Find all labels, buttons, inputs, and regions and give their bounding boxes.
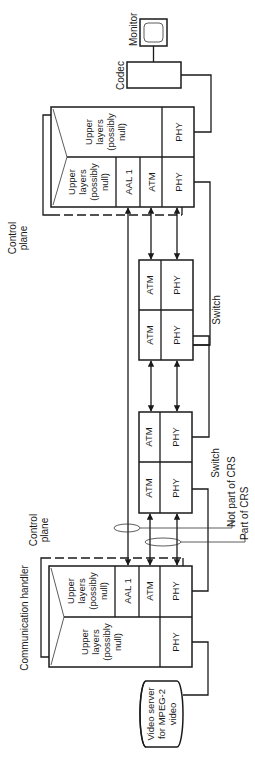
handler-srv-upper-line3: (possibly (101, 623, 112, 661)
handler-net-upper-line2: layers (76, 578, 87, 604)
video-server: Video server for MPEG-2 video (140, 681, 183, 747)
top-left-upper-line2: layers (77, 169, 88, 195)
communication-handler-label: Communication handler (19, 565, 30, 671)
monitor: Monitor (128, 12, 167, 46)
switch-upper-phy-2: PHY (171, 325, 182, 345)
svg-text:plane: plane (18, 225, 29, 250)
top-phy-switch-link (193, 182, 210, 345)
switch-upper-atm-2: ATM (144, 325, 155, 344)
top-terminal: Upper layers (possibly null) PHY Upper l… (43, 107, 194, 215)
svg-text:Control: Control (28, 514, 39, 546)
codec: Codec (115, 61, 181, 90)
part-of-crs-label: Part of CRS (239, 486, 250, 540)
svg-text:Video server: Video server (145, 687, 156, 740)
top-right-upper-line1: Upper (83, 119, 94, 145)
monitor-label: Monitor (128, 12, 139, 46)
svg-text:Control: Control (7, 222, 18, 254)
svg-text:video: video (167, 703, 178, 726)
switch-lower-label: Switch (210, 448, 221, 477)
switch-upper-label: Switch (211, 295, 222, 324)
crs-protocol-diagram: Monitor Codec Upper layers (possibly nul… (0, 0, 255, 776)
switch-lower-phy-1: PHY (170, 427, 181, 447)
switch-lower-handler-phy-link (192, 489, 208, 591)
top-right-upper-line3: (possibly (105, 113, 116, 151)
handler-net-upper-line4: null) (98, 582, 109, 600)
part-of-crs-leader (181, 533, 245, 542)
top-left-atm: ATM (146, 172, 157, 191)
switch-lower-phy-2: PHY (170, 478, 181, 498)
control-plane-label-bottom: Control plane (28, 514, 50, 546)
switch-lower-atm-1: ATM (143, 427, 154, 446)
top-left-upper-line4: null) (99, 173, 110, 191)
not-part-of-crs-ellipse (114, 524, 140, 532)
not-part-of-crs-leader (140, 520, 232, 528)
switch-lower-atm-2: ATM (143, 478, 154, 497)
control-plane-label-top: Control plane (7, 222, 29, 254)
switch-to-switch-phy-link (192, 336, 209, 437)
handler-net-upper-line3: (possibly (87, 572, 98, 610)
not-part-of-crs-label: Not part of CRS (226, 456, 237, 527)
handler-net-upper-line1: Upper (65, 578, 76, 604)
handler-srv-phy: PHY (170, 632, 181, 652)
switch-upper: ATM PHY ATM PHY (139, 260, 193, 360)
top-left-aal: AAL 1 (123, 169, 134, 195)
switch-upper-phy-1: PHY (171, 275, 182, 295)
top-left-upper-line1: Upper (66, 169, 77, 195)
handler-srv-upper-line2: layers (90, 629, 101, 655)
handler-srv-upper-line4: null) (112, 633, 123, 651)
top-right-upper-line4: null) (116, 123, 127, 141)
top-left-phy: PHY (173, 172, 184, 192)
codec-label: Codec (115, 61, 126, 90)
handler-srv-upper-line1: Upper (79, 629, 90, 655)
top-right-upper-line2: layers (94, 119, 105, 145)
switch-upper-atm-1: ATM (144, 275, 155, 294)
communication-handler: Upper layers (possibly null) AAL 1 ATM P… (41, 558, 192, 667)
handler-net-atm: ATM (144, 581, 155, 600)
svg-text:for MPEG-2: for MPEG-2 (156, 689, 167, 739)
handler-net-aal: AAL 1 (122, 578, 133, 604)
handler-net-phy: PHY (170, 581, 181, 601)
switch-lower: ATM PHY ATM PHY (139, 412, 192, 513)
svg-text:plane: plane (39, 517, 50, 542)
top-left-upper-line3: (possibly (88, 163, 99, 201)
top-right-phy: PHY (173, 122, 184, 142)
